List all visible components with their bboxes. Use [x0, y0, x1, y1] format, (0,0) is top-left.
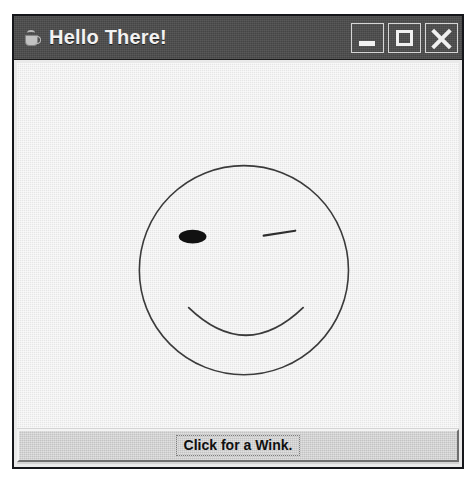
- java-coffee-cup-icon: [22, 28, 42, 48]
- left-eye: [179, 230, 207, 244]
- application-window: Hello There!: [12, 14, 464, 469]
- face-circle: [139, 166, 348, 375]
- wink-button[interactable]: Click for a Wink.: [17, 429, 459, 462]
- wink-button-label: Click for a Wink.: [176, 435, 301, 456]
- window-title-bar[interactable]: Hello There!: [14, 16, 462, 60]
- bottom-button-panel: Click for a Wink.: [17, 428, 459, 464]
- icon-cup-handle: [35, 36, 41, 44]
- window-client-area: Click for a Wink.: [14, 60, 462, 467]
- window-title-text: Hello There!: [49, 26, 351, 49]
- screenshot-root: Hello There!: [0, 0, 474, 483]
- maximize-button[interactable]: [388, 23, 421, 53]
- window-controls-group: [351, 23, 458, 53]
- maximize-icon: [396, 30, 413, 46]
- smiley-drawing-canvas[interactable]: [17, 63, 459, 428]
- close-button[interactable]: [425, 23, 458, 53]
- minimize-icon: [359, 41, 375, 46]
- smiley-face-illustration: [17, 63, 459, 428]
- mouth-smile: [189, 308, 303, 336]
- right-eye-wink: [264, 231, 296, 236]
- minimize-button[interactable]: [351, 23, 384, 53]
